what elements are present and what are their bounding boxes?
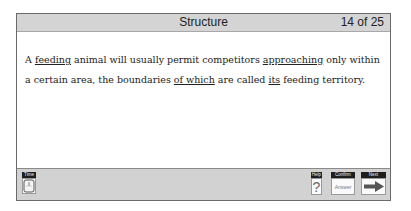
answer-option-d[interactable]: its	[268, 74, 280, 85]
clock-icon	[22, 178, 36, 194]
text-segment: feeding territory.	[280, 74, 365, 85]
question-progress: 14 of 25	[341, 15, 384, 29]
answer-option-a[interactable]: feeding	[35, 54, 71, 65]
next-button[interactable]: Next	[361, 172, 386, 195]
answer-option-b[interactable]: approaching	[263, 54, 323, 65]
arrow-right-icon	[361, 178, 386, 195]
text-segment: animal will usually permit competitors	[71, 54, 263, 65]
confirm-answer-button[interactable]: Confirm Answer	[331, 172, 355, 195]
text-segment: A	[25, 54, 35, 65]
footer-toolbar: Time Help ? Confirm Answer Next	[17, 168, 390, 200]
question-text: A feeding animal will usually permit com…	[25, 50, 380, 90]
help-button[interactable]: Help ?	[311, 172, 322, 195]
time-button[interactable]: Time	[22, 172, 36, 194]
header-bar: Structure 14 of 25	[17, 14, 390, 32]
confirm-answer-text: Answer	[331, 178, 355, 195]
question-mark-icon: ?	[311, 178, 322, 195]
text-segment: are called	[215, 74, 269, 85]
section-title: Structure	[17, 15, 390, 29]
test-window: Structure 14 of 25 A feeding animal will…	[16, 13, 391, 201]
answer-option-c[interactable]: of which	[174, 74, 215, 85]
